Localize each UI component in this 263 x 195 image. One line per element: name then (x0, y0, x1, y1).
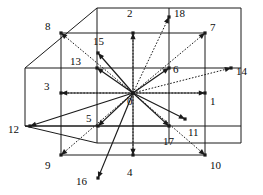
node-marker-8 (59, 31, 62, 34)
node-marker-6 (167, 66, 170, 69)
arrow-18 (133, 22, 167, 93)
node-label-17: 17 (163, 136, 174, 147)
node-marker-11 (183, 117, 186, 120)
node-marker-10 (203, 153, 206, 156)
node-marker-18 (167, 15, 170, 18)
arrow-11 (133, 93, 181, 117)
node-marker-14 (229, 66, 232, 69)
node-label-7: 7 (210, 22, 216, 33)
node-label-1: 1 (210, 96, 216, 107)
node-marker-9 (59, 153, 62, 156)
node-marker-1 (203, 91, 206, 94)
node-marker-12 (28, 124, 31, 127)
node-label-12: 12 (8, 124, 19, 135)
node-label-18: 18 (174, 8, 185, 19)
arrow-17 (133, 93, 165, 123)
node-label-6: 6 (173, 64, 179, 75)
node-marker-16 (96, 176, 99, 179)
node-label-8: 8 (45, 21, 51, 32)
diagram-canvas: 0123456789101112131415161718 (0, 0, 263, 195)
arrow-14 (133, 69, 226, 93)
node-label-5: 5 (86, 113, 92, 124)
node-marker-5 (96, 124, 99, 127)
node-label-13: 13 (70, 56, 81, 67)
node-marker-15 (96, 51, 99, 54)
node-marker-2 (131, 31, 134, 34)
node-label-11: 11 (188, 127, 199, 138)
arrow-7 (133, 36, 201, 93)
node-label-4: 4 (127, 167, 133, 178)
node-label-2: 2 (127, 8, 133, 19)
node-label-16: 16 (76, 176, 87, 187)
node-label-0: 0 (127, 96, 133, 107)
node-marker-7 (203, 31, 206, 34)
node-marker-13 (95, 66, 98, 69)
arrow-6 (133, 71, 165, 93)
node-label-14: 14 (236, 66, 247, 77)
node-label-3: 3 (44, 81, 50, 92)
node-label-9: 9 (45, 160, 51, 171)
node-marker-3 (59, 91, 62, 94)
node-marker-17 (167, 124, 170, 127)
node-label-15: 15 (93, 36, 104, 47)
node-label-10: 10 (210, 160, 221, 171)
node-marker-4 (131, 153, 134, 156)
arrow-12 (35, 93, 133, 124)
